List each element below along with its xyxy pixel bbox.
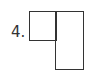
figure-number-label: 4. (11, 25, 25, 40)
small-square-shape (29, 11, 57, 41)
tall-rectangle-shape (55, 11, 84, 70)
